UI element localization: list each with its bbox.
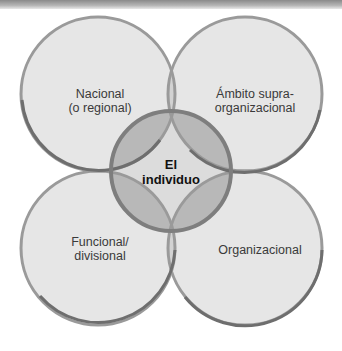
label-supra-organizacional: Ámbito supra- organizacional — [200, 87, 310, 115]
label-nacional: Nacional (o regional) — [55, 87, 145, 115]
label-funcional-divisional: Funcional/ divisional — [55, 235, 145, 263]
label-el-individuo: El individuo — [131, 157, 211, 187]
label-organizacional: Organizacional — [200, 243, 320, 257]
